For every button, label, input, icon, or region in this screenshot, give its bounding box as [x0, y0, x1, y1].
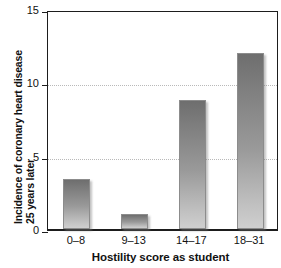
y-tick-label-5: 5 [17, 152, 39, 163]
bar-9–13 [121, 214, 148, 229]
y-tick-label-10: 10 [17, 78, 39, 89]
x-axis-label: Hostility score as student [0, 251, 281, 263]
y-axis-label-line1: Incidence of coronary heart disease [12, 50, 24, 224]
y-tick-10 [42, 85, 48, 86]
y-tick-0 [42, 232, 48, 233]
y-axis-label-line2: 25 years later [24, 159, 36, 224]
x-tick-label-18–31: 18–31 [220, 235, 278, 246]
y-tick-15 [42, 12, 48, 13]
bar-14–17 [179, 100, 206, 229]
y-tick-5 [42, 159, 48, 160]
x-tick-label-0–8: 0–8 [47, 235, 105, 246]
y-tick-label-0: 0 [17, 225, 39, 236]
y-tick-label-15: 15 [17, 5, 39, 16]
plot-area [47, 11, 278, 231]
bar-18–31 [237, 53, 264, 229]
bar-chart-figure: Incidence of coronary heart disease 25 y… [0, 0, 281, 268]
x-tick-label-9–13: 9–13 [105, 235, 163, 246]
bar-0–8 [63, 179, 90, 229]
x-tick-label-14–17: 14–17 [163, 235, 221, 246]
